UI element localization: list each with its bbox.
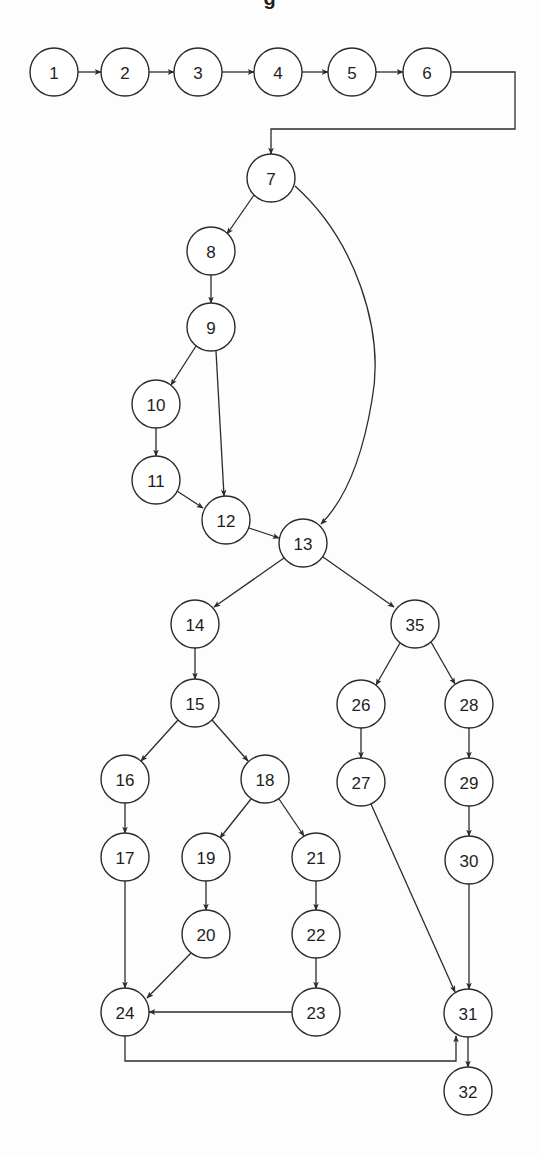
node-label: 11 — [147, 472, 165, 491]
node-8: 8 — [187, 227, 235, 275]
node-30: 30 — [445, 836, 493, 884]
node-label: 23 — [307, 1004, 326, 1023]
node-32: 32 — [444, 1067, 492, 1115]
edge-7-to-8 — [227, 195, 254, 234]
edge-9-to-10 — [171, 346, 196, 385]
edge-6-to-7 — [271, 72, 515, 154]
edge-13-to-14 — [214, 558, 284, 607]
node-18: 18 — [241, 755, 289, 803]
node-label: 3 — [193, 64, 202, 83]
node-20: 20 — [182, 910, 230, 958]
node-label: 8 — [206, 243, 215, 262]
node-10: 10 — [132, 380, 180, 428]
node-5: 5 — [328, 48, 376, 96]
node-31: 31 — [444, 989, 492, 1037]
node-label: 29 — [460, 774, 479, 793]
node-15: 15 — [171, 679, 219, 727]
edge-24-to-31 — [125, 1036, 456, 1061]
node-label: 26 — [352, 696, 371, 715]
node-22: 22 — [292, 910, 340, 958]
node-27: 27 — [337, 758, 385, 806]
control-flow-graph: 1234567891011121314151617181920212223243… — [0, 0, 539, 1157]
edge-27-to-31 — [371, 804, 455, 992]
edge-11-to-12 — [177, 491, 203, 508]
node-26: 26 — [337, 680, 385, 728]
node-29: 29 — [445, 758, 493, 806]
node-label: 16 — [116, 771, 135, 790]
node-14: 14 — [171, 600, 219, 648]
node-label: 1 — [49, 64, 58, 83]
edge-7-to-13 — [295, 186, 375, 524]
edge-12-to-13 — [249, 528, 279, 538]
node-7: 7 — [247, 154, 295, 202]
node-4: 4 — [254, 48, 302, 96]
node-3: 3 — [174, 48, 222, 96]
edge-18-to-19 — [220, 799, 251, 838]
node-23: 23 — [292, 988, 340, 1036]
edges-layer — [78, 72, 515, 1067]
node-label: 10 — [147, 396, 166, 415]
node-13: 13 — [279, 519, 327, 567]
node-11: 11 — [132, 456, 180, 504]
edge-18-to-21 — [279, 799, 304, 836]
node-9: 9 — [187, 303, 235, 351]
node-label: 24 — [116, 1004, 135, 1023]
node-label: 31 — [459, 1005, 478, 1024]
node-label: 35 — [406, 616, 425, 635]
node-label: 15 — [186, 695, 205, 714]
edge-15-to-18 — [212, 720, 248, 761]
node-12: 12 — [202, 496, 250, 544]
node-24: 24 — [101, 988, 149, 1036]
node-16: 16 — [101, 755, 149, 803]
node-28: 28 — [445, 680, 493, 728]
node-1: 1 — [30, 48, 78, 96]
edge-20-to-24 — [147, 953, 191, 998]
node-label: 2 — [120, 64, 129, 83]
node-label: 9 — [206, 319, 215, 338]
node-label: 27 — [352, 774, 371, 793]
node-label: 22 — [307, 926, 326, 945]
edge-15-to-16 — [141, 720, 178, 761]
node-35: 35 — [391, 600, 439, 648]
node-label: 30 — [460, 852, 479, 871]
node-2: 2 — [101, 48, 149, 96]
node-21: 21 — [292, 833, 340, 881]
node-label: 28 — [460, 696, 479, 715]
node-label: 17 — [116, 849, 135, 868]
nodes-layer: 1234567891011121314151617181920212223243… — [30, 48, 493, 1115]
node-label: 18 — [256, 771, 275, 790]
node-label: 21 — [307, 849, 326, 868]
node-label: 14 — [186, 616, 205, 635]
node-label: 19 — [197, 849, 216, 868]
node-19: 19 — [182, 833, 230, 881]
node-label: 20 — [197, 926, 216, 945]
node-label: 4 — [273, 64, 282, 83]
edge-13-to-35 — [323, 557, 394, 607]
node-label: 12 — [217, 512, 236, 531]
edge-9-to-12 — [216, 351, 224, 496]
node-label: 5 — [347, 64, 356, 83]
node-label: 6 — [422, 64, 431, 83]
node-17: 17 — [101, 833, 149, 881]
edge-35-to-28 — [431, 642, 455, 684]
edge-35-to-26 — [376, 643, 400, 685]
node-6: 6 — [403, 48, 451, 96]
node-label: 13 — [294, 535, 313, 554]
node-label: 32 — [459, 1083, 478, 1102]
node-label: 7 — [266, 170, 275, 189]
